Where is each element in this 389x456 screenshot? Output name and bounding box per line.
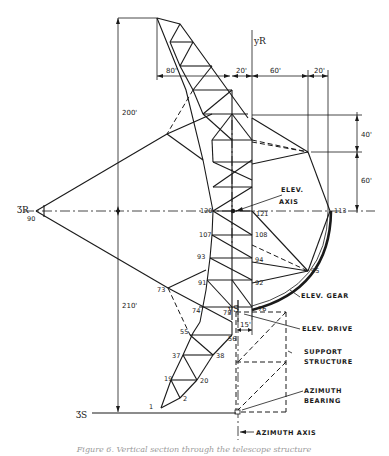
node-2: 2 <box>183 395 187 403</box>
dim-80: 80' <box>166 67 177 75</box>
dim-60: 60' <box>270 67 281 75</box>
node-1: 1 <box>149 403 153 411</box>
elev-axis-label-line2: AXIS <box>279 198 299 206</box>
axis-label-zs: ƷS <box>76 410 87 420</box>
dim-15: 15' <box>240 321 251 329</box>
truss-section-drawing: 200' 210' ƷR 90 <box>0 0 389 456</box>
azimuth-bearing-label-line1: AZIMUTH <box>304 387 342 395</box>
node-95: 95 <box>311 267 319 275</box>
node-120: 120 <box>200 207 212 215</box>
dim-200: 200' <box>122 109 137 117</box>
node-37: 37 <box>172 352 180 360</box>
elev-gear-label: ELEV. GEAR <box>301 292 349 300</box>
offset-dimension: 15' <box>237 321 252 332</box>
node-75: 75 <box>223 309 231 317</box>
dim-20-right: 20' <box>314 67 325 75</box>
figure-caption: Figure 6. Vertical section through the t… <box>76 445 312 454</box>
node-92: 92 <box>255 279 263 287</box>
dim-40: 40' <box>361 131 372 139</box>
axis-label-zr: ƷR <box>17 205 29 215</box>
node-91: 91 <box>198 279 206 287</box>
node-56: 56 <box>228 335 236 343</box>
node-108: 108 <box>255 231 267 239</box>
overall-height-dimension: 200' 210' <box>116 18 157 412</box>
elev-drive-label: ELEV. DRIVE <box>302 325 353 333</box>
ground-line-zs: ƷS <box>76 410 236 420</box>
node-94: 94 <box>255 256 263 264</box>
node-55: 55 <box>180 328 188 336</box>
node-121: 121 <box>256 210 268 218</box>
dim-20-left: 20' <box>236 67 247 75</box>
node-38: 38 <box>216 352 224 360</box>
elev-axis-label-line1: ELEV. <box>281 186 304 194</box>
upper-bracing <box>167 90 212 160</box>
node-93: 93 <box>197 253 205 261</box>
dim-60-vertical: 60' <box>361 177 372 185</box>
node-20: 20 <box>200 377 208 385</box>
node-113: 113 <box>334 207 346 215</box>
node-74: 74 <box>192 307 200 315</box>
node-73: 73 <box>157 286 165 294</box>
support-structure-label-line1: SUPPORT <box>304 348 342 356</box>
dish-back-truss <box>157 18 252 322</box>
azimuth-bearing-label-line2: BEARING <box>304 397 341 405</box>
node-19: 19 <box>164 375 172 383</box>
node-107: 107 <box>199 231 211 239</box>
node-90: 90 <box>27 215 35 223</box>
lower-truss <box>161 270 232 408</box>
support-structure-label-line2: STRUCTURE <box>304 358 353 366</box>
axis-label-yr: yR <box>253 36 266 46</box>
axis-yr: yR <box>252 30 266 118</box>
azimuth-axis-label: AZIMUTH AXIS <box>256 429 316 437</box>
dim-210: 210' <box>122 302 137 310</box>
node-76: 76 <box>258 305 266 313</box>
